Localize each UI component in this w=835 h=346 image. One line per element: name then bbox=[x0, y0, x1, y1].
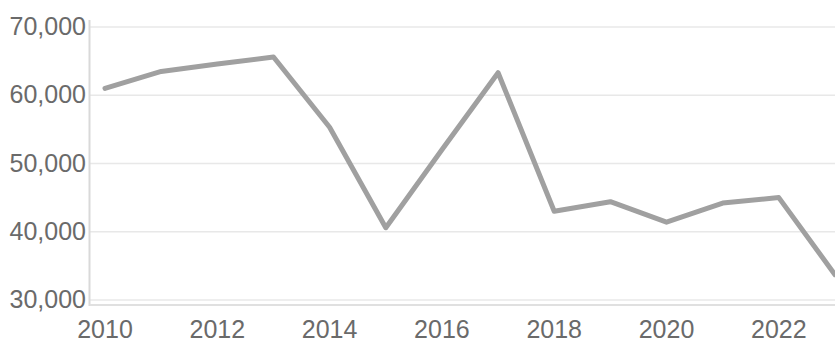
x-axis-tick-label: 2022 bbox=[751, 317, 807, 342]
x-axis-tick-label: 2016 bbox=[414, 317, 470, 342]
x-axis-tick-label: 2012 bbox=[189, 317, 245, 342]
x-axis-tick-labels: 2010201220142016201820202022 bbox=[0, 0, 835, 346]
x-axis-tick-label: 2014 bbox=[302, 317, 358, 342]
x-axis-tick-label: 2010 bbox=[77, 317, 133, 342]
x-axis-tick-label: 2020 bbox=[639, 317, 695, 342]
x-axis-tick-label: 2018 bbox=[526, 317, 582, 342]
line-chart: 70,00060,00050,00040,00030,000 201020122… bbox=[0, 0, 835, 346]
